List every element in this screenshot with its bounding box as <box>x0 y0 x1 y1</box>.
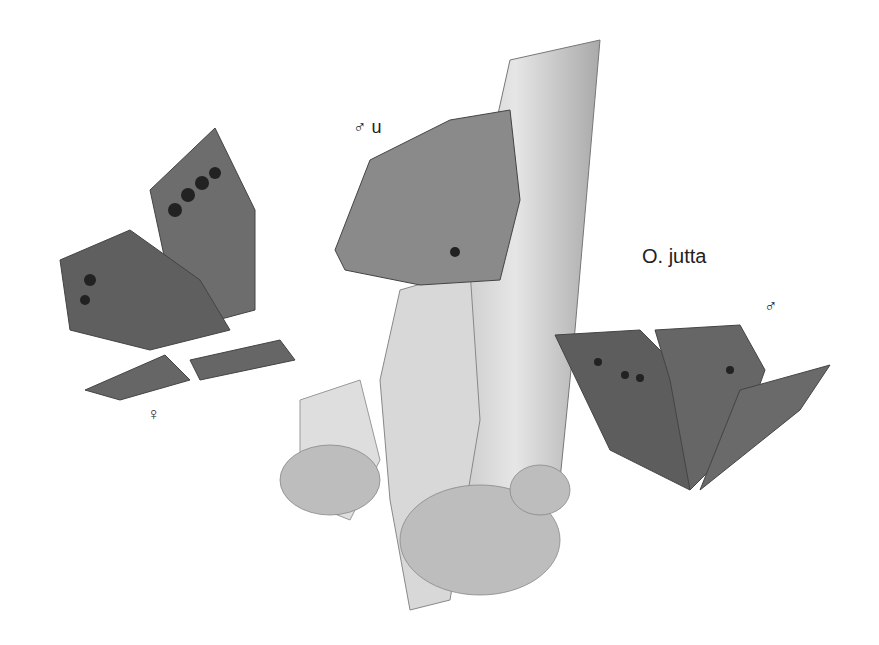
male-underside-label: ♂ u <box>353 117 382 138</box>
male-label: ♂ <box>764 296 778 317</box>
male-butterfly <box>555 325 830 490</box>
female-butterfly <box>60 128 295 400</box>
illustration <box>0 0 879 645</box>
female-label: ♀ <box>147 404 161 425</box>
species-label: O. jutta <box>642 245 706 268</box>
